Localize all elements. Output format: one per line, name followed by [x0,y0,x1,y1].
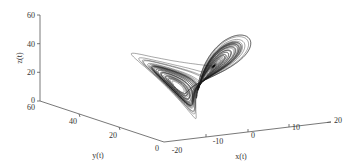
y-tick: 60 [27,103,35,112]
lorenz-attractor-chart: 60 40 20 0 z(t) 60 40 20 0 y(t) -20 [0,0,356,167]
z-tick: 20 [27,68,35,77]
plot-area: 60 40 20 0 z(t) 60 40 20 0 y(t) -20 [0,0,356,167]
y-tick: 20 [109,131,117,140]
y-tick-labels: 60 40 20 0 [27,103,159,153]
x-tick: 10 [292,123,300,132]
x-tick-labels: -20 -10 0 10 20 [172,116,342,155]
y-axis-label: y(t) [92,151,104,160]
x-tick: -10 [213,137,224,146]
x-axis [164,122,331,142]
x-tick: -20 [172,146,183,155]
x-tick: 20 [334,116,342,125]
z-tick: 60 [27,11,35,20]
z-axis [37,15,40,101]
y-axis [40,101,164,142]
x-tick: 0 [251,131,255,140]
y-tick: 40 [69,117,77,126]
y-tick: 0 [155,144,159,153]
z-tick: 40 [27,40,35,49]
x-axis-label: x(t) [235,152,247,161]
trajectory-path [131,35,251,119]
z-tick-labels: 60 40 20 0 [27,11,35,105]
trajectory-line [131,35,251,119]
z-axis-label: z(t) [15,52,24,63]
